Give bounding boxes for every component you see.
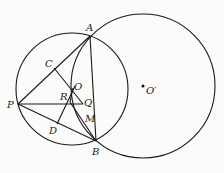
label-R: R bbox=[59, 91, 68, 102]
label-P: P bbox=[6, 99, 14, 110]
label-O: O bbox=[74, 81, 82, 92]
point-O-prime-dot bbox=[142, 85, 145, 88]
label-A: A bbox=[85, 22, 93, 33]
label-D: D bbox=[48, 125, 57, 136]
label-B: B bbox=[91, 146, 99, 157]
geometry-diagram: A B P C O R Q M D O′ bbox=[0, 0, 224, 173]
label-O-prime: O′ bbox=[146, 85, 157, 96]
circle-O bbox=[16, 33, 128, 145]
segment-PA bbox=[18, 36, 90, 104]
label-Q: Q bbox=[84, 97, 92, 108]
label-M: M bbox=[84, 113, 96, 124]
segment-AB bbox=[90, 36, 96, 141]
label-C: C bbox=[45, 58, 53, 69]
